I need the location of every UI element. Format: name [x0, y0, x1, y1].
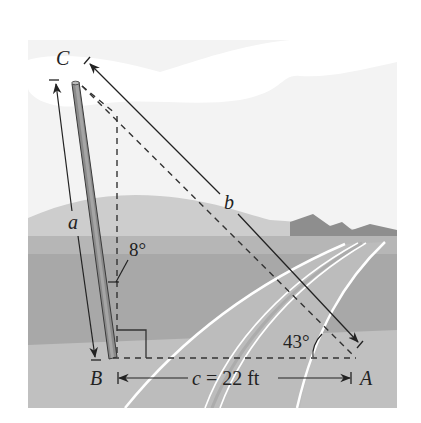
side-label-a: a — [68, 212, 78, 232]
vertex-label-c: C — [56, 48, 69, 68]
diagram-figure: C B A a b Cc = 22 ft 8° 43° — [0, 0, 421, 423]
angle-label-43: 43° — [283, 332, 310, 351]
vertex-label-a: A — [360, 368, 372, 388]
angle-label-8: 8° — [129, 240, 146, 259]
background — [28, 40, 397, 408]
side-c-length: c = 22 ft — [192, 367, 259, 389]
side-label-c: Cc = 22 ft — [192, 368, 259, 388]
side-label-b: b — [224, 192, 234, 212]
vertex-label-b: B — [90, 368, 102, 388]
